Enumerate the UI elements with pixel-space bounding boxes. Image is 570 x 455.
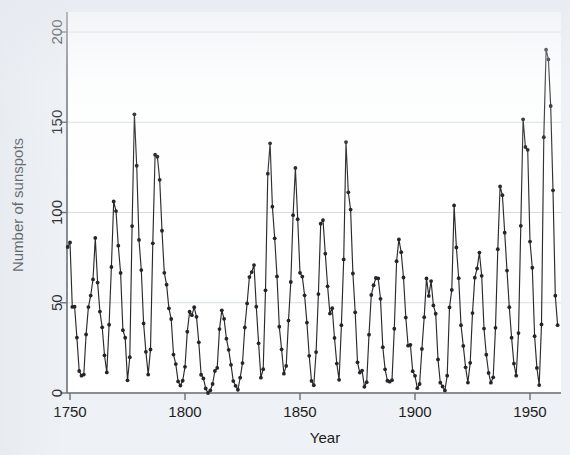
data-point [139, 268, 143, 272]
data-point [429, 279, 433, 283]
data-point [404, 316, 408, 320]
data-point [126, 378, 130, 382]
data-point [169, 317, 173, 321]
data-point [409, 343, 413, 347]
data-point [323, 252, 327, 256]
data-point [360, 369, 364, 373]
data-point [121, 328, 125, 332]
data-point [503, 231, 507, 235]
data-point [264, 288, 268, 292]
data-point [455, 246, 459, 250]
data-point [457, 276, 461, 280]
data-point [231, 379, 235, 383]
data-point [227, 348, 231, 352]
data-point [225, 337, 229, 341]
data-point [452, 204, 456, 208]
data-point [317, 292, 321, 296]
data-point [489, 381, 493, 385]
y-axis-ticks: 050100150200 [48, 19, 68, 397]
data-point [167, 306, 171, 310]
data-point [158, 178, 162, 182]
data-point [75, 336, 79, 340]
data-point [100, 325, 104, 329]
data-point [530, 266, 534, 270]
data-point [105, 371, 109, 375]
data-point [222, 317, 226, 321]
data-point [521, 117, 525, 121]
data-point [445, 374, 449, 378]
data-point [363, 385, 367, 389]
data-point [498, 185, 502, 189]
data-point [533, 334, 537, 338]
data-point [340, 323, 344, 327]
y-tick-label-200: 200 [48, 19, 65, 44]
data-point [491, 375, 495, 379]
data-point [89, 294, 93, 298]
data-point [110, 265, 114, 269]
x-tick-label-1800: 1800 [168, 403, 201, 420]
data-point [321, 218, 325, 222]
data-point [188, 310, 192, 314]
data-point [282, 372, 286, 376]
data-point [349, 208, 353, 212]
data-point [487, 371, 491, 375]
data-point [179, 384, 183, 388]
data-point [519, 224, 523, 228]
data-point [133, 112, 137, 116]
data-point [68, 241, 72, 245]
data-point [356, 360, 360, 364]
data-point [181, 379, 185, 383]
data-point [197, 340, 201, 344]
data-point [252, 263, 256, 267]
data-point [484, 353, 488, 357]
data-point [146, 373, 150, 377]
data-point [248, 275, 252, 279]
data-point [537, 383, 541, 387]
data-point [202, 376, 206, 380]
data-point [326, 284, 330, 288]
data-point [459, 323, 463, 327]
data-point [510, 336, 514, 340]
data-point [413, 374, 417, 378]
data-point [482, 327, 486, 331]
data-point [468, 361, 472, 365]
data-point [176, 380, 180, 384]
data-point [112, 200, 116, 204]
data-point [496, 247, 500, 251]
data-point [298, 271, 302, 275]
data-point [162, 271, 166, 275]
data-point [434, 312, 438, 316]
data-point [103, 353, 107, 357]
data-point [432, 304, 436, 308]
data-point [337, 378, 341, 382]
data-point [287, 319, 291, 323]
data-point [303, 293, 307, 297]
data-point [192, 305, 196, 309]
data-point [328, 312, 332, 316]
data-point [137, 238, 141, 242]
data-point [507, 305, 511, 309]
data-point [183, 365, 187, 369]
data-point [254, 305, 258, 309]
data-point [236, 388, 240, 392]
data-point [395, 259, 399, 263]
data-point [114, 209, 118, 213]
data-point [314, 350, 318, 354]
y-axis-title: Number of sunspots [9, 138, 26, 272]
data-point [448, 306, 452, 310]
data-point [381, 345, 385, 349]
data-point [268, 141, 272, 145]
data-point [98, 310, 102, 314]
data-point [344, 140, 348, 144]
data-point [346, 190, 350, 194]
data-point [204, 387, 208, 391]
data-point [280, 347, 284, 351]
data-point [342, 258, 346, 262]
data-point [245, 302, 249, 306]
data-point [399, 250, 403, 254]
data-point [123, 336, 127, 340]
data-point [411, 369, 415, 373]
data-point [119, 271, 123, 275]
y-tick-label-50: 50 [48, 294, 65, 311]
data-point [480, 274, 484, 278]
